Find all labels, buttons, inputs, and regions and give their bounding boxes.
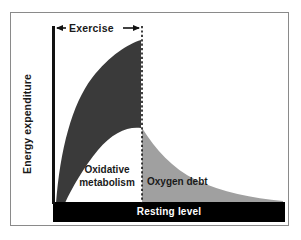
exercise-label: Exercise xyxy=(69,22,114,34)
oxidative-metabolism-label-line1: Oxidative xyxy=(76,163,138,176)
y-axis-line xyxy=(52,26,55,204)
oxygen-debt-area xyxy=(142,128,283,205)
oxygen-debt-label: Oxygen debt xyxy=(147,176,208,187)
oxidative-metabolism-label: Oxidative metabolism xyxy=(76,163,138,189)
figure-root: Energy expenditure Exercise Oxidative me… xyxy=(0,0,301,240)
oxidative-metabolism-label-line2: metabolism xyxy=(76,176,138,189)
energy-expenditure-chart xyxy=(0,0,301,240)
resting-level-label: Resting level xyxy=(53,206,285,217)
